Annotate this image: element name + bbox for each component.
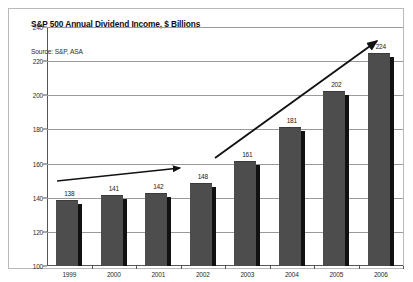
y-tick-label: 200: [33, 92, 43, 99]
x-tick-mark: [136, 266, 137, 269]
x-tick-mark: [359, 266, 360, 269]
x-tick-label: 2006: [374, 271, 388, 278]
y-tick-mark: [43, 231, 47, 232]
y-tick-label: 120: [33, 228, 43, 235]
x-tick-label: 2003: [240, 271, 254, 278]
y-tick-mark: [43, 266, 47, 267]
x-tick-mark: [314, 266, 315, 269]
bar-group: 224: [368, 27, 394, 266]
bar-value-label: 138: [64, 190, 74, 197]
bar-value-label: 148: [198, 173, 208, 180]
bar-group: 181: [279, 27, 305, 266]
y-tick-mark: [43, 61, 47, 62]
bar-group: 142: [145, 27, 171, 266]
y-tick-label: 140: [33, 194, 43, 201]
plot-area: 100120140160180200220240 138141142148161…: [47, 27, 403, 266]
bar-shadow: [390, 57, 394, 266]
bar-group: 202: [323, 27, 349, 266]
x-tick-label: 2004: [285, 271, 299, 278]
y-tick-label: 160: [33, 160, 43, 167]
bar: [190, 183, 212, 266]
x-tick-mark: [270, 266, 271, 269]
bar-shadow: [167, 197, 171, 266]
y-tick-label: 180: [33, 126, 43, 133]
bar: [234, 161, 256, 266]
x-tick-mark: [225, 266, 226, 269]
y-tick-mark: [43, 95, 47, 96]
x-tick-mark: [403, 266, 404, 269]
y-tick-label: 240: [33, 24, 43, 31]
bar-value-label: 202: [331, 81, 341, 88]
chart-screenshot: S&P 500 Annual Dividend Income, $ Billio…: [0, 0, 413, 282]
bar-shadow: [301, 131, 305, 266]
y-tick-mark: [43, 197, 47, 198]
bar: [323, 91, 345, 266]
x-tick-mark: [92, 266, 93, 269]
bar-shadow: [78, 204, 82, 266]
chart-outer-border: S&P 500 Annual Dividend Income, $ Billio…: [8, 8, 404, 269]
y-tick-mark: [43, 27, 47, 28]
bar-value-label: 142: [153, 183, 163, 190]
bar: [101, 195, 123, 266]
bar: [368, 53, 390, 266]
y-tick-label: 100: [33, 263, 43, 270]
x-tick-label: 2001: [151, 271, 165, 278]
bar: [56, 200, 78, 266]
x-tick-label: 2005: [329, 271, 343, 278]
bar-shadow: [212, 187, 216, 266]
x-tick-mark: [181, 266, 182, 269]
y-tick-mark: [43, 129, 47, 130]
bar-value-label: 141: [109, 185, 119, 192]
bar: [145, 193, 167, 266]
bar-shadow: [123, 199, 127, 266]
x-tick-label: 1999: [62, 271, 76, 278]
bar-shadow: [256, 165, 260, 266]
y-tick-mark: [43, 163, 47, 164]
bar-group: 141: [101, 27, 127, 266]
bar-value-label: 161: [242, 151, 252, 158]
bar-shadow: [345, 95, 349, 266]
x-tick-label: 2000: [107, 271, 121, 278]
bar-group: 161: [234, 27, 260, 266]
bar-group: 148: [190, 27, 216, 266]
bar: [279, 127, 301, 266]
bar-value-label: 181: [287, 117, 297, 124]
bar-group: 138: [56, 27, 82, 266]
x-tick-label: 2002: [196, 271, 210, 278]
bar-value-label: 224: [376, 43, 386, 50]
y-tick-label: 220: [33, 58, 43, 65]
